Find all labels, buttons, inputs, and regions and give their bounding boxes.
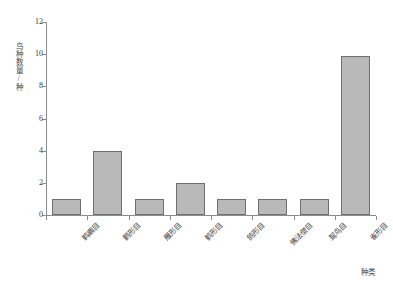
bar-䴕鸟目 bbox=[300, 199, 329, 215]
bar-鹈鹕目 bbox=[52, 199, 81, 215]
y-tick-label: 2 bbox=[39, 178, 43, 187]
x-tick-mark bbox=[252, 216, 253, 220]
x-tick-label-鹤形目: 鹤形目 bbox=[205, 222, 226, 243]
x-tick-mark bbox=[87, 216, 88, 220]
bar-雁形目 bbox=[135, 199, 164, 215]
y-tick-12: 12 bbox=[46, 22, 47, 23]
bar-鹤形目 bbox=[176, 183, 205, 215]
x-tick-label-鹳形目: 鹳形目 bbox=[122, 222, 143, 243]
bar-鹳形目 bbox=[93, 151, 122, 215]
x-tick-mark bbox=[211, 216, 212, 220]
x-tick-mark bbox=[376, 216, 377, 220]
y-tick-label: 6 bbox=[39, 114, 43, 123]
y-tick-8: 8 bbox=[46, 86, 47, 87]
x-tick-label-雀形目: 雀形目 bbox=[370, 222, 391, 243]
x-axis-title: 种类 bbox=[361, 266, 375, 277]
x-tick-mark bbox=[294, 216, 295, 220]
y-tick-6: 6 bbox=[46, 119, 47, 120]
y-tick-2: 2 bbox=[46, 183, 47, 184]
y-tick-4: 4 bbox=[46, 151, 47, 152]
y-tick-10: 10 bbox=[46, 54, 47, 55]
x-tick-label-佛法僧目: 佛法僧目 bbox=[289, 222, 314, 247]
bar-鸽形目 bbox=[217, 199, 246, 215]
bar-雀形目 bbox=[341, 56, 370, 215]
x-tick-label-雁形目: 雁形目 bbox=[163, 222, 184, 243]
x-tick-mark bbox=[335, 216, 336, 220]
y-tick-label: 8 bbox=[39, 81, 43, 90]
plot-area: 024681012 bbox=[46, 22, 376, 216]
x-tick-mark bbox=[170, 216, 171, 220]
y-tick-label: 4 bbox=[39, 146, 43, 155]
y-tick-label: 10 bbox=[35, 49, 43, 58]
bar-佛法僧目 bbox=[258, 199, 287, 215]
y-tick-label: 12 bbox=[35, 17, 43, 26]
x-tick-label-鸽形目: 鸽形目 bbox=[246, 222, 267, 243]
x-tick-label-鹈鹕目: 鹈鹕目 bbox=[81, 222, 102, 243]
x-tick-mark bbox=[129, 216, 130, 220]
bar-chart: 鸟种数量/种 024681012 鹈鹕目鹳形目雁形目鹤形目鸽形目佛法僧目䴕鸟目雀… bbox=[0, 0, 393, 281]
x-tick-label-䴕鸟目: 䴕鸟目 bbox=[328, 222, 349, 243]
y-tick-label: 0 bbox=[39, 210, 43, 219]
x-tick-mark bbox=[46, 216, 47, 220]
y-axis-title: 鸟种数量/种 bbox=[8, 26, 22, 106]
